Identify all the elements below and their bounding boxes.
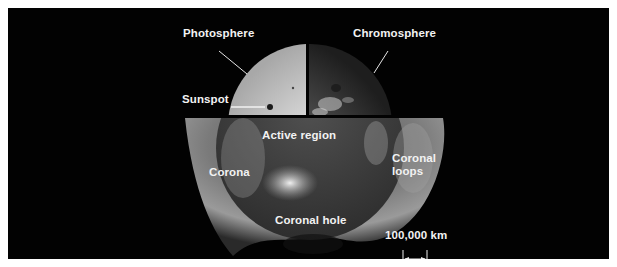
photosphere-leader-line [219, 51, 247, 74]
sunspot-label: Sunspot [182, 93, 229, 106]
sunspot-mark [267, 104, 273, 110]
coronal-loops-label: Coronal loops [392, 152, 442, 178]
photosphere-label: Photosphere [183, 27, 254, 40]
vertical-divider [306, 38, 309, 116]
coronal-hole-label: Coronal hole [275, 214, 346, 227]
active-region-label: Active region [262, 129, 336, 142]
scale-bar [403, 250, 427, 259]
sun-layers-figure: Photosphere Chromosphere Sunspot Active … [8, 8, 609, 259]
chromosphere-leader-line [374, 51, 388, 73]
chromosphere-label: Chromosphere [353, 27, 436, 40]
scale-bar-label: 100,000 km [385, 229, 447, 242]
horizontal-divider [188, 115, 458, 118]
corona-label: Corona [209, 166, 250, 179]
